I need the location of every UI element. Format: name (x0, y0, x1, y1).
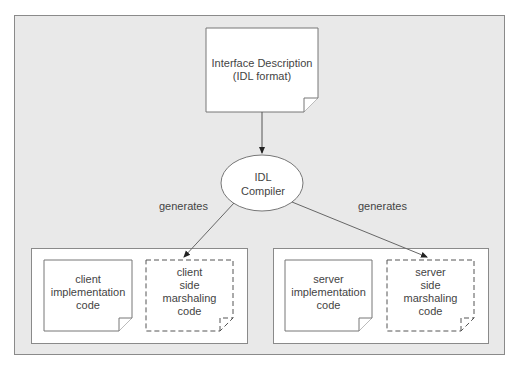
idl-compiler-label: IDL Compiler (241, 170, 285, 198)
client-marshaling-node: client side marshaling code (146, 260, 233, 324)
interface-description-node: Interface Description (IDL format) (206, 28, 318, 112)
idl-compiler-node: IDL Compiler (222, 155, 304, 212)
server-marshaling-label: server side marshaling code (404, 266, 458, 318)
server-impl-label: server implementation code (291, 273, 366, 312)
generates-left-label: generates (159, 200, 208, 212)
client-marshaling-label: client side marshaling code (163, 266, 217, 318)
generates-right-label: generates (358, 200, 407, 212)
client-impl-label: client implementation code (51, 273, 126, 312)
server-impl-node: server implementation code (285, 260, 372, 324)
server-marshaling-node: server side marshaling code (387, 260, 474, 324)
client-impl-node: client implementation code (44, 260, 132, 324)
interface-description-label: Interface Description (IDL format) (212, 57, 313, 83)
